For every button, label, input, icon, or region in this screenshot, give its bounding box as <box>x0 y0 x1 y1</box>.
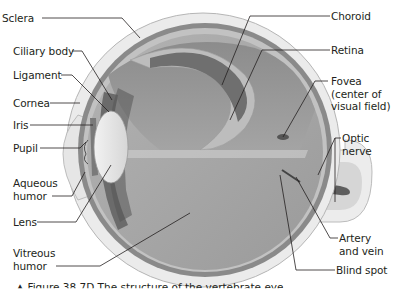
label-ligament: Ligament <box>13 69 62 82</box>
label-retina: Retina <box>331 44 364 57</box>
label-choroid: Choroid <box>331 10 371 23</box>
eye-diagram: Sclera Ciliary body Ligament Cornea Iris… <box>0 0 394 289</box>
label-pupil: Pupil <box>13 142 38 155</box>
label-cornea: Cornea <box>13 97 50 110</box>
label-blind-spot: Blind spot <box>336 264 387 277</box>
label-vitreous-humor: Vitreous humor <box>13 247 55 272</box>
label-aqueous-humor: Aqueous humor <box>13 177 58 202</box>
label-ciliary-body: Ciliary body <box>13 45 74 58</box>
label-optic-nerve: Optic nerve <box>342 132 372 157</box>
figure-caption: ▲ Figure 38.7D The structure of the vert… <box>16 281 284 289</box>
lens-shape <box>94 111 128 183</box>
label-artery-and-vein: Artery and vein <box>339 232 384 257</box>
label-sclera: Sclera <box>2 12 34 25</box>
label-lens: Lens <box>13 216 37 229</box>
label-iris: Iris <box>13 119 28 132</box>
label-fovea: Fovea (center of visual field) <box>331 75 390 113</box>
